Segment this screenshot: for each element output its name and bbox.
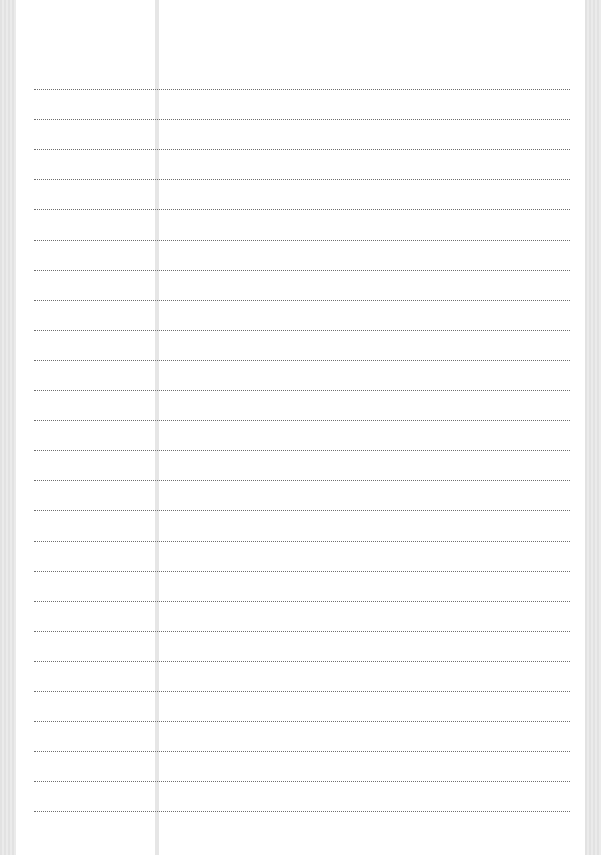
ruled-line: [34, 811, 570, 812]
ruled-line: [34, 721, 570, 722]
ruled-line: [34, 480, 570, 481]
ruled-line: [34, 541, 570, 542]
ruled-line: [34, 661, 570, 662]
ruled-line: [34, 420, 570, 421]
ruled-line: [34, 751, 570, 752]
ruled-line: [34, 631, 570, 632]
ruled-line: [34, 691, 570, 692]
ruled-lines: [0, 0, 601, 855]
ruled-line: [34, 450, 570, 451]
ruled-line: [34, 89, 570, 90]
ruled-line: [34, 781, 570, 782]
ruled-line: [34, 510, 570, 511]
ruled-line: [34, 390, 570, 391]
ruled-line: [34, 209, 570, 210]
ruled-line: [34, 300, 570, 301]
ruled-line: [34, 360, 570, 361]
ruled-line: [34, 601, 570, 602]
ruled-line: [34, 270, 570, 271]
ruled-line: [34, 240, 570, 241]
ruled-line: [34, 330, 570, 331]
ruled-line: [34, 179, 570, 180]
ruled-line: [34, 149, 570, 150]
ruled-line: [34, 119, 570, 120]
ruled-line: [34, 571, 570, 572]
